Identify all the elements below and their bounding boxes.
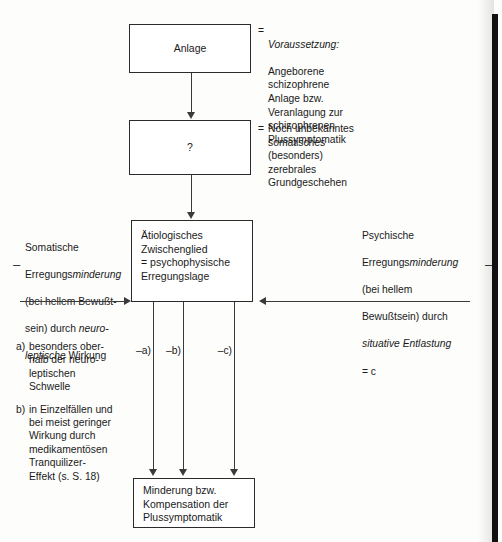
connector-anlage-unknown-arrowhead <box>187 112 195 119</box>
list-item: b) in Einzelfällen und bei meist geringe… <box>16 403 124 483</box>
anlage-note-emphasis: Voraussetzung: <box>268 39 339 50</box>
diagram-canvas: Anlage = Voraussetzung: Angeborene schiz… <box>0 0 502 542</box>
box-anlage-label: Anlage <box>130 42 250 56</box>
right-note-line2-italic: minderung <box>410 257 459 268</box>
footnote-marker-b: b) <box>16 403 29 483</box>
footnote-marker-a: a) <box>16 340 29 394</box>
branch-line-c <box>234 302 235 470</box>
right-note-line6: = c <box>362 366 376 377</box>
right-note-line1: Psychische <box>362 230 414 241</box>
branch-arrowhead-a <box>149 469 157 476</box>
box-anlage: Anlage <box>129 24 251 73</box>
scan-edge-bar <box>492 14 498 542</box>
right-note-line5-italic: situative Entlastung <box>362 338 451 349</box>
connector-unknown-central-arrowhead <box>187 212 195 219</box>
left-note-line2: Erregungs <box>25 269 73 280</box>
branch-line-a <box>153 302 154 470</box>
right-note-line3: (bei hellem <box>362 284 412 295</box>
left-note-line4: sein) durch <box>25 323 79 334</box>
unknown-note-equals: = <box>258 122 264 136</box>
anlage-note-equals: = <box>258 24 264 38</box>
left-note-line2-italic: minderung <box>73 269 122 280</box>
connector-unknown-central <box>191 175 192 213</box>
left-sign-minus: – <box>13 258 20 271</box>
branch-label-b: –b) <box>153 345 181 357</box>
left-input-arrowhead <box>124 297 131 305</box>
left-input-arrow-line <box>20 301 124 302</box>
box-unknown-label: ? <box>130 141 250 155</box>
right-note-line4: Bewußtsein) durch <box>362 311 448 322</box>
unknown-note: Noch unbekanntes somatisches (besonders)… <box>268 122 386 190</box>
branch-arrowhead-c <box>230 469 238 476</box>
footnote-text-b: in Einzelfällen und bei meist geringer W… <box>29 403 113 483</box>
right-note: Psychische Erregungsminderung (bei helle… <box>362 215 484 378</box>
box-central: Ätiologisches Zwischenglied = psychophys… <box>131 220 253 302</box>
right-input-arrowhead <box>259 297 266 305</box>
left-note-line1: Somatische <box>25 242 79 253</box>
right-note-line2: Erregungs <box>362 257 410 268</box>
box-central-label: Ätiologisches Zwischenglied = psychophys… <box>141 229 253 283</box>
list-item: a) besonders ober- halb der neuro- lepti… <box>16 340 124 394</box>
footnote-list: a) besonders ober- halb der neuro- lepti… <box>16 340 124 492</box>
box-unknown: ? <box>129 120 251 175</box>
box-outcome-label: Minderung bzw. Kompensation der Plussymp… <box>143 484 255 525</box>
branch-label-a: –a) <box>123 345 151 357</box>
footnote-text-a: besonders ober- halb der neuro- leptisch… <box>29 340 104 394</box>
branch-line-b <box>183 302 184 470</box>
right-input-arrow-line <box>266 301 470 302</box>
connector-anlage-unknown <box>191 73 192 113</box>
box-outcome: Minderung bzw. Kompensation der Plussymp… <box>133 478 255 528</box>
branch-arrowhead-b <box>179 469 187 476</box>
branch-label-c: –c) <box>204 345 232 357</box>
left-note-line4-italic: neuro- <box>79 323 109 334</box>
